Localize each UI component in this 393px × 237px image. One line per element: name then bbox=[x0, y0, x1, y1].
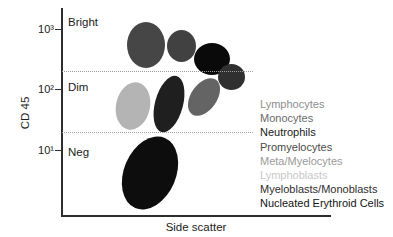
legend-item-lymphoblasts: Lymphoblasts bbox=[260, 168, 384, 182]
y-tick-mark bbox=[55, 89, 62, 90]
legend-item-promyelocytes: Promyelocytes bbox=[260, 140, 384, 154]
legend-item-monocytes: Monocytes bbox=[260, 111, 384, 125]
cd45-side-scatter-chart: 10³10²10¹ BrightDimNeg CD 45 Side scatte… bbox=[0, 0, 393, 237]
gate-line-bright-dim-boundary bbox=[62, 71, 253, 72]
y-tick-label: 10³ bbox=[24, 23, 54, 35]
population-ellipse-monocytes bbox=[167, 30, 196, 62]
legend: LymphocytesMonocytesNeutrophilsPromyeloc… bbox=[260, 97, 384, 211]
population-ellipse-lymphocytes bbox=[127, 22, 165, 68]
legend-item-meta-myelocytes: Meta/Myelocytes bbox=[260, 154, 384, 168]
region-label-dim: Dim bbox=[68, 81, 88, 93]
legend-item-neutrophils: Neutrophils bbox=[260, 125, 384, 139]
x-axis-title: Side scatter bbox=[166, 221, 227, 233]
population-ellipse-myeloblasts-monoblasts bbox=[148, 72, 190, 135]
population-ellipse-lymphoblasts bbox=[111, 79, 154, 133]
population-ellipse-promyelocytes bbox=[218, 64, 245, 90]
region-label-bright: Bright bbox=[68, 16, 98, 28]
y-axis-line bbox=[61, 8, 63, 216]
y-axis-title: CD 45 bbox=[19, 97, 31, 130]
region-label-neg: Neg bbox=[68, 146, 89, 158]
legend-item-nucleated-erythroid-cells: Nucleated Erythroid Cells bbox=[260, 196, 384, 210]
y-tick-mark bbox=[55, 150, 62, 151]
legend-item-myeloblasts-monoblasts: Myeloblasts/Monoblasts bbox=[260, 182, 384, 196]
y-tick-mark bbox=[55, 29, 62, 30]
population-ellipse-nucleated-erythroid-cells bbox=[111, 128, 189, 218]
x-axis-line bbox=[61, 215, 331, 217]
legend-item-lymphocytes: Lymphocytes bbox=[260, 97, 384, 111]
y-tick-label: 10² bbox=[24, 83, 54, 95]
y-tick-label: 10¹ bbox=[24, 144, 54, 156]
gate-line-dim-neg-boundary bbox=[62, 132, 253, 133]
